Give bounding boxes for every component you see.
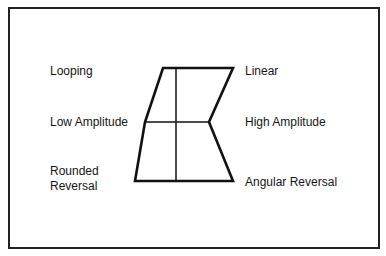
label-reversal: Reversal: [50, 179, 97, 193]
label-angular-reversal: Angular Reversal: [245, 175, 337, 189]
label-rounded: Rounded: [50, 164, 99, 178]
shape-outline: [135, 68, 233, 181]
label-low-amplitude: Low Amplitude: [50, 115, 128, 129]
label-looping: Looping: [50, 64, 93, 78]
label-high-amplitude: High Amplitude: [245, 115, 326, 129]
label-linear: Linear: [245, 64, 278, 78]
